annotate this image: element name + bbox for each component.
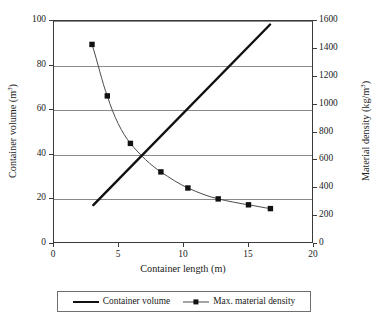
ytick-label-60: 60 (37, 104, 46, 113)
ytick-mark-100 (49, 20, 53, 21)
y2tick-label-1400: 1400 (319, 43, 338, 52)
ytick-mark-40 (49, 154, 53, 155)
ytick-label-40: 40 (37, 149, 46, 158)
legend-label-material-density: Max. material density (213, 297, 295, 306)
ytick-label-100: 100 (32, 15, 46, 24)
y2-axis-title-close: ) (360, 81, 371, 84)
ytick-mark-80 (49, 65, 53, 66)
y2tick-mark-1400 (313, 48, 317, 49)
y-axis-title-close: ) (7, 84, 18, 87)
y-axis-title-text: Container volume (m (7, 91, 18, 178)
gridline-y-100 (54, 21, 312, 22)
y2tick-mark-800 (313, 132, 317, 133)
y2-axis-title-text: Material density (kg/m (360, 88, 371, 181)
y2tick-label-0: 0 (319, 238, 324, 247)
legend-label-container-volume: Container volume (103, 297, 170, 306)
plot-area (53, 20, 313, 243)
ytick-mark-60 (49, 109, 53, 110)
y2tick-label-1000: 1000 (319, 99, 338, 108)
y2tick-mark-1000 (313, 104, 317, 105)
y2tick-mark-1600 (313, 20, 317, 21)
thick-line-swatch-icon (73, 297, 99, 306)
y2tick-label-1600: 1600 (319, 15, 338, 24)
chart-legend: Container volume Max. material density (57, 291, 311, 312)
ytick-label-80: 80 (37, 60, 46, 69)
y2tick-mark-600 (313, 159, 317, 160)
y2-axis-title: Material density (kg/m3) (361, 81, 371, 181)
ytick-mark-20 (49, 198, 53, 199)
xtick-label-15: 15 (243, 250, 252, 259)
y2tick-mark-400 (313, 187, 317, 188)
y2tick-label-1200: 1200 (319, 71, 338, 80)
y2tick-label-400: 400 (319, 182, 333, 191)
xtick-mark-5 (118, 243, 119, 247)
legend-item-material-density[interactable]: Max. material density (183, 297, 295, 306)
y-axis-title: Container volume (m3) (8, 84, 18, 178)
xtick-label-10: 10 (178, 250, 187, 259)
y-axis-title-exponent: 3 (6, 87, 13, 90)
x-axis-title: Container length (m) (140, 264, 225, 274)
y2tick-mark-200 (313, 215, 317, 216)
xtick-mark-0 (53, 243, 54, 247)
ytick-label-0: 0 (41, 238, 46, 247)
gridline-y-60 (54, 110, 312, 111)
gridline-y-80 (54, 66, 312, 67)
y2tick-label-200: 200 (319, 210, 333, 219)
marker-line-swatch-icon (183, 297, 209, 306)
ytick-label-20: 20 (37, 194, 46, 203)
gridline-y-40 (54, 155, 312, 156)
gridline-y-20 (54, 199, 312, 200)
xtick-label-5: 5 (116, 250, 121, 259)
chart-figure: 100 80 60 40 20 0 1600 1400 1200 1000 80… (0, 0, 380, 319)
y2tick-mark-1200 (313, 76, 317, 77)
xtick-mark-10 (183, 243, 184, 247)
y2-axis-title-exponent: 3 (359, 84, 366, 87)
legend-item-container-volume[interactable]: Container volume (73, 297, 170, 306)
xtick-label-20: 20 (308, 250, 317, 259)
xtick-mark-20 (313, 243, 314, 247)
xtick-label-0: 0 (51, 250, 56, 259)
y2tick-label-600: 600 (319, 155, 333, 164)
y2tick-label-800: 800 (319, 127, 333, 136)
xtick-mark-15 (248, 243, 249, 247)
